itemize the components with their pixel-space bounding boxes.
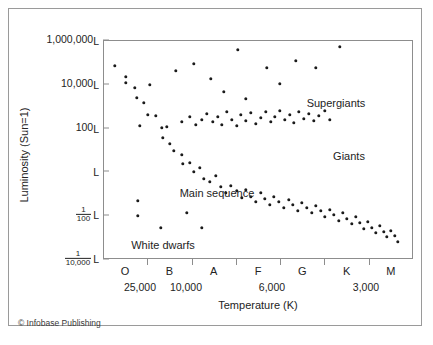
y-axis-tick-mark [103, 40, 109, 41]
data-point [216, 115, 219, 118]
data-point [239, 113, 242, 116]
data-point [332, 213, 335, 216]
y-axis-tick-label: 10,000L [61, 77, 99, 90]
data-point [192, 170, 195, 173]
data-point [288, 113, 291, 116]
y-axis-tick-mark [103, 127, 109, 128]
data-point [307, 112, 310, 115]
y-axis-tick-mark [103, 215, 109, 216]
data-point [362, 227, 365, 230]
data-point [283, 118, 286, 121]
data-point [259, 116, 262, 119]
data-point [135, 96, 138, 99]
fraction-glyph: 110,000 [65, 249, 91, 267]
data-point [124, 75, 127, 78]
data-point [244, 119, 247, 122]
x-axis-temperature-label: 25,000 [124, 281, 156, 293]
data-point [323, 215, 326, 218]
scatter-canvas: SupergiantsGiantsMain sequenceWhite dwar… [104, 41, 412, 258]
data-point [188, 115, 191, 118]
data-point [259, 191, 262, 194]
data-point [244, 97, 247, 100]
data-point [396, 240, 399, 243]
x-axis-tick-mark [236, 259, 237, 265]
data-point [265, 66, 268, 69]
data-point [185, 211, 188, 214]
data-point [214, 174, 217, 177]
data-point [136, 214, 139, 217]
data-point [198, 166, 201, 169]
data-point [172, 149, 175, 152]
hr-diagram-figure: Luminosity (Sun=1) 1,000,000L10,000L100L… [0, 0, 433, 345]
data-point [297, 110, 300, 113]
data-point [302, 117, 305, 120]
y-axis-tick-label: 1,000,000L [46, 33, 99, 46]
data-point [328, 118, 331, 121]
data-point [370, 226, 373, 229]
x-axis-tick-mark [192, 259, 193, 265]
data-point [323, 109, 326, 112]
data-point [338, 45, 341, 48]
x-axis-class-O: O [121, 265, 130, 277]
data-point [337, 219, 340, 222]
data-point [181, 162, 184, 165]
y-axis-tick-labels: 1,000,000L10,000L100LL1100L110,000L [20, 40, 99, 259]
data-point [378, 224, 381, 227]
data-point [138, 124, 141, 127]
data-point [278, 82, 281, 85]
data-point [200, 226, 203, 229]
data-point [269, 120, 272, 123]
data-point [113, 64, 116, 67]
data-point [291, 203, 294, 206]
data-point [310, 211, 313, 214]
data-point [202, 177, 205, 180]
data-point [296, 209, 299, 212]
data-point [345, 217, 348, 220]
x-axis-class-K: K [343, 265, 350, 277]
y-axis-tick-label: 110,000L [65, 250, 99, 268]
data-point [165, 125, 168, 128]
data-point [328, 208, 331, 211]
data-point [209, 77, 212, 80]
data-point [220, 123, 223, 126]
x-axis-tick-mark [369, 259, 370, 265]
data-point [174, 69, 177, 72]
x-axis-tick-mark [324, 259, 325, 265]
data-point [277, 200, 280, 203]
data-point [211, 120, 214, 123]
data-point [159, 226, 162, 229]
data-point [200, 118, 203, 121]
data-point [350, 222, 353, 225]
data-point [230, 118, 233, 121]
y-axis-tick-mark [103, 171, 109, 172]
data-point [254, 200, 257, 203]
region-label-giants: Giants [333, 150, 365, 162]
y-axis-tick-label: 1100L [76, 206, 99, 224]
x-axis-tick-mark [280, 259, 281, 265]
data-point [317, 114, 320, 117]
region-label-white-dwarfs: White dwarfs [131, 239, 195, 251]
data-point [154, 114, 157, 117]
x-axis-temperature-label: 6,000 [259, 281, 285, 293]
data-point [263, 197, 266, 200]
data-point [249, 111, 252, 114]
data-point [188, 161, 191, 164]
x-axis-class-G: G [298, 265, 307, 277]
data-point [225, 110, 228, 113]
data-point [358, 221, 361, 224]
data-point [278, 109, 281, 112]
data-point [287, 198, 290, 201]
data-point [254, 122, 257, 125]
data-point [161, 136, 164, 139]
data-point [168, 142, 171, 145]
x-axis-temperature-label: 3,000 [353, 281, 379, 293]
data-point [268, 203, 271, 206]
data-point [294, 59, 297, 62]
y-axis-tick-mark [103, 259, 109, 260]
data-point [148, 83, 151, 86]
x-axis-title: Temperature (K) [103, 299, 413, 311]
data-point [354, 215, 357, 218]
data-point [192, 62, 195, 65]
data-point [146, 113, 149, 116]
data-point [180, 120, 183, 123]
